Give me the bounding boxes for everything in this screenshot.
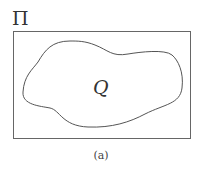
outer-region-label: Π bbox=[12, 7, 29, 29]
diagram-canvas: Π Q (a) bbox=[0, 0, 202, 174]
figure-caption: (a) bbox=[93, 149, 108, 162]
inner-region-label: Q bbox=[93, 76, 109, 98]
